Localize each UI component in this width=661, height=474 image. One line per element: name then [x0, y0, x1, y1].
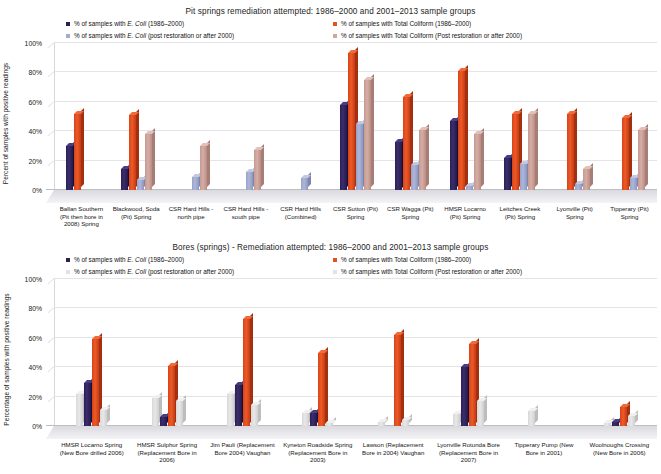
bar[interactable]: [394, 335, 401, 426]
bar[interactable]: [453, 414, 460, 426]
bar[interactable]: [84, 383, 91, 426]
legend-item[interactable]: % of samples with Total Coliform (1986–2…: [333, 19, 522, 29]
legend-column-right-1: % of samples with Total Coliform (1986–2…: [333, 19, 522, 43]
bar[interactable]: [160, 417, 167, 426]
bar[interactable]: [419, 130, 426, 190]
bar[interactable]: [200, 146, 207, 190]
bar[interactable]: [458, 71, 465, 190]
bar[interactable]: [461, 367, 468, 426]
bar[interactable]: [528, 411, 535, 426]
bar[interactable]: [630, 178, 637, 190]
bar[interactable]: [403, 97, 410, 190]
bar[interactable]: [310, 413, 317, 426]
bar[interactable]: [302, 413, 309, 426]
bar[interactable]: [340, 105, 347, 190]
legend-item[interactable]: % of samples with E. Coli (1986–2000): [66, 255, 234, 265]
bar[interactable]: [326, 423, 333, 426]
bar[interactable]: [254, 150, 261, 190]
bar-face: [575, 184, 582, 190]
bar-group: [109, 43, 164, 190]
bar[interactable]: [152, 398, 159, 426]
bar[interactable]: [528, 114, 535, 190]
bar-group: [280, 279, 355, 426]
bar[interactable]: [474, 134, 481, 190]
legend-item[interactable]: % of samples with E. Coli (post restorat…: [66, 31, 234, 41]
x-axis-label: HMSR Sulphur Spring (Replacement Bore in…: [129, 439, 204, 464]
bar[interactable]: [520, 164, 527, 190]
bar[interactable]: [92, 339, 99, 426]
bar[interactable]: [504, 158, 511, 190]
bar[interactable]: [622, 118, 629, 190]
bar[interactable]: [301, 178, 308, 190]
bar[interactable]: [628, 416, 635, 426]
bar[interactable]: [402, 420, 409, 426]
bar-face: [176, 401, 183, 426]
bar[interactable]: [638, 130, 645, 190]
legend-item[interactable]: % of samples with E. Coli (post restorat…: [66, 267, 234, 277]
bar[interactable]: [575, 184, 582, 190]
bar[interactable]: [76, 394, 83, 426]
bar[interactable]: [512, 114, 519, 190]
legend-swatch-icon: [66, 270, 70, 274]
legend-item[interactable]: % of samples with E. Coli (1986–2000): [66, 19, 234, 29]
bar-face: [504, 158, 511, 190]
bar-face: [356, 124, 363, 190]
bar[interactable]: [318, 353, 325, 427]
bar[interactable]: [378, 422, 385, 426]
bar[interactable]: [243, 319, 250, 426]
bar[interactable]: [583, 169, 590, 190]
bar-face: [318, 353, 325, 427]
bar[interactable]: [348, 53, 355, 190]
bar[interactable]: [612, 422, 619, 426]
bar[interactable]: [66, 146, 73, 190]
bar[interactable]: [129, 115, 136, 190]
bar-group: [438, 43, 493, 190]
bar[interactable]: [567, 114, 574, 190]
bar[interactable]: [620, 407, 627, 426]
bar[interactable]: [246, 172, 253, 190]
plot-floor-2: [46, 426, 657, 439]
bar-group: [328, 43, 383, 190]
bar[interactable]: [356, 124, 363, 190]
bar[interactable]: [137, 180, 144, 190]
legend-item[interactable]: % of samples with Total Coliform (1986–2…: [333, 255, 522, 265]
bar-face: [227, 394, 234, 426]
bar[interactable]: [235, 385, 242, 426]
x-axis-labels-1: Ballan Southern (Pit then bore in 2008) …: [46, 203, 657, 228]
x-axis-labels-2: HMSR Locarno Spring (New Bore drilled 20…: [46, 439, 657, 464]
legend-item[interactable]: % of samples with Total Coliform (Post r…: [333, 267, 522, 277]
legend-item[interactable]: % of samples with Total Coliform (Post r…: [333, 31, 522, 41]
bar-face: [348, 53, 355, 190]
bar[interactable]: [411, 165, 418, 190]
bar[interactable]: [168, 366, 175, 426]
bar-group: [54, 279, 129, 426]
bar-face: [121, 169, 128, 190]
bar[interactable]: [450, 121, 457, 190]
bar[interactable]: [145, 134, 152, 190]
bar[interactable]: [364, 80, 371, 190]
y-axis-tick-label: 0%: [32, 187, 42, 194]
bar[interactable]: [227, 394, 234, 426]
bar[interactable]: [100, 410, 107, 426]
bar-group: [431, 279, 506, 426]
bar-side: [481, 128, 484, 187]
bar-face: [622, 118, 629, 190]
legend-item-label: % of samples with Total Coliform (1986–2…: [341, 20, 471, 28]
bar-group: [582, 279, 657, 426]
bar[interactable]: [176, 401, 183, 426]
bar-face: [326, 423, 333, 426]
bar-side: [261, 144, 264, 187]
bar[interactable]: [192, 177, 199, 190]
bar[interactable]: [477, 401, 484, 426]
bar-face: [243, 319, 250, 426]
bar[interactable]: [604, 423, 611, 426]
bar-face: [461, 367, 468, 426]
bar[interactable]: [251, 405, 258, 426]
bar-face: [477, 401, 484, 426]
bar[interactable]: [469, 344, 476, 426]
bar[interactable]: [74, 114, 81, 190]
bar[interactable]: [395, 142, 402, 191]
bar[interactable]: [466, 186, 473, 190]
bar[interactable]: [121, 169, 128, 190]
legend-swatch-icon: [66, 22, 70, 26]
